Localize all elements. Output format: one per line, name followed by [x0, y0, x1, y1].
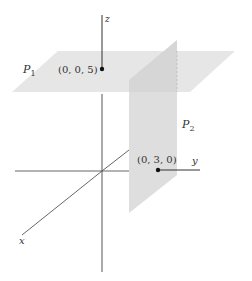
y-axis-label: y	[191, 155, 198, 166]
plane-p2-label: P2	[181, 118, 195, 133]
x-axis-back	[102, 150, 129, 171]
x-axis-label: x	[19, 235, 25, 246]
coordinate-diagram: z y x (0, 0, 5) (0, 3, 0) P1 P2	[0, 0, 252, 281]
point-0-3-0	[156, 168, 160, 172]
point-label-0-0-5: (0, 0, 5)	[58, 64, 98, 75]
x-axis	[22, 171, 102, 235]
plane-p1	[12, 51, 235, 92]
z-axis-label: z	[104, 14, 110, 24]
diagram-canvas: z y x (0, 0, 5) (0, 3, 0) P1 P2	[0, 0, 252, 281]
point-label-0-3-0: (0, 3, 0)	[137, 154, 177, 165]
plane-p2	[129, 92, 177, 213]
plane-p1-label: P1	[22, 63, 36, 78]
point-0-0-5	[100, 67, 104, 71]
